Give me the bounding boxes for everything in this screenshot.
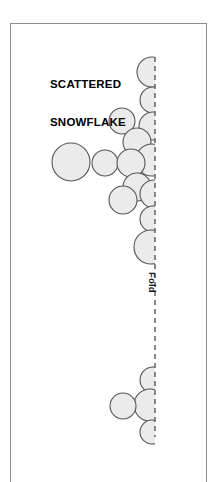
page-canvas: SCATTERED SNOWFLAKE Fold [0,0,218,482]
snowflake-circle [137,57,167,87]
snowflake-circle [134,389,166,421]
page-title-line-2: SNOWFLAKE [50,116,126,129]
page-title: SCATTERED SNOWFLAKE [50,53,126,153]
snowflake-circle [92,150,118,176]
snowflake-circle [140,87,166,113]
snowflake-circle [109,186,137,214]
snowflake-circle [134,230,168,264]
snowflake-circle [140,420,164,444]
snowflake-circle [140,206,166,232]
snowflake-circle [117,149,145,177]
snowflake-circle [140,180,168,208]
fold-label: Fold [147,272,158,293]
snowflake-circle [110,393,136,419]
page-title-line-1: SCATTERED [50,78,126,91]
